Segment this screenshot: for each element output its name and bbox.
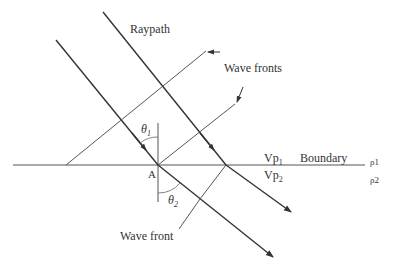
theta2-label: θ2 — [168, 193, 178, 209]
theta2-arc — [158, 183, 180, 193]
vp1-label: Vp1 — [264, 151, 283, 167]
wave-fronts-label: Wave fronts — [224, 61, 282, 75]
wave-front-lower-ext — [179, 199, 200, 229]
raypath-label: Raypath — [130, 22, 170, 36]
wave-front-label: Wave front — [120, 229, 174, 243]
wave-front-upper-1 — [66, 51, 206, 165]
rho1-label: ρ1 — [370, 157, 379, 167]
refracted-ray-right — [226, 165, 291, 212]
wave-front-upper-2 — [158, 104, 235, 165]
boundary-label: Boundary — [300, 151, 347, 165]
wave-front-pointer-2 — [237, 87, 243, 102]
refraction-diagram: Raypath Wave fronts Wave front Boundary … — [0, 0, 399, 267]
wave-front-lower — [200, 165, 226, 199]
rho2-label: ρ2 — [370, 175, 379, 185]
incident-ray-right-arrow — [200, 133, 214, 150]
vp2-label: Vp2 — [264, 168, 283, 184]
theta1-label: θ1 — [141, 122, 151, 138]
point-a-label: A — [148, 168, 156, 180]
